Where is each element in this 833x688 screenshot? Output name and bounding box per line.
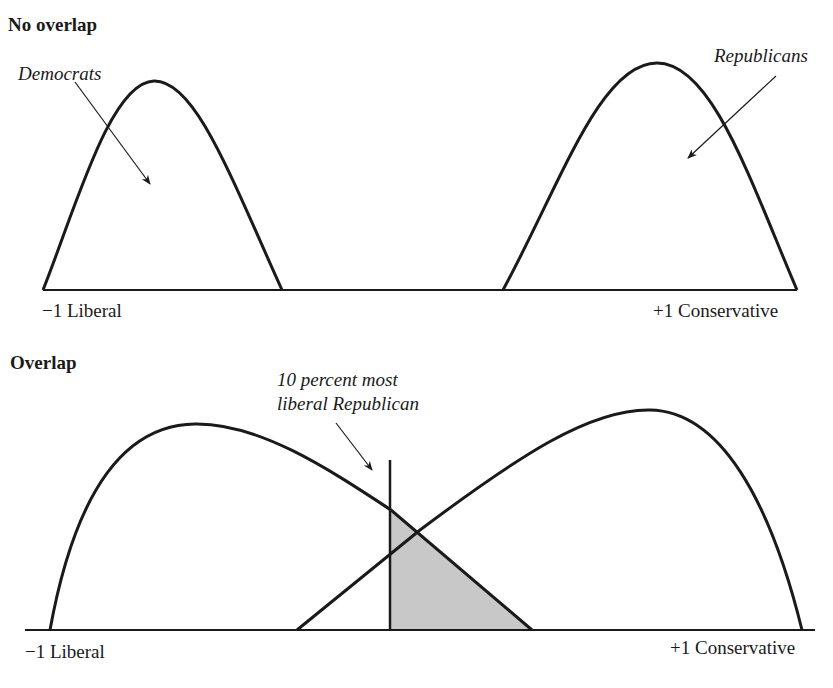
democrats-arrow bbox=[75, 82, 150, 184]
no-overlap-chart bbox=[43, 63, 797, 290]
democrats-curve bbox=[43, 81, 282, 290]
republicans-curve-overlap bbox=[297, 410, 802, 630]
cutoff-arrow bbox=[336, 423, 372, 470]
distribution-figure bbox=[0, 0, 833, 688]
overlap-chart bbox=[25, 410, 815, 630]
